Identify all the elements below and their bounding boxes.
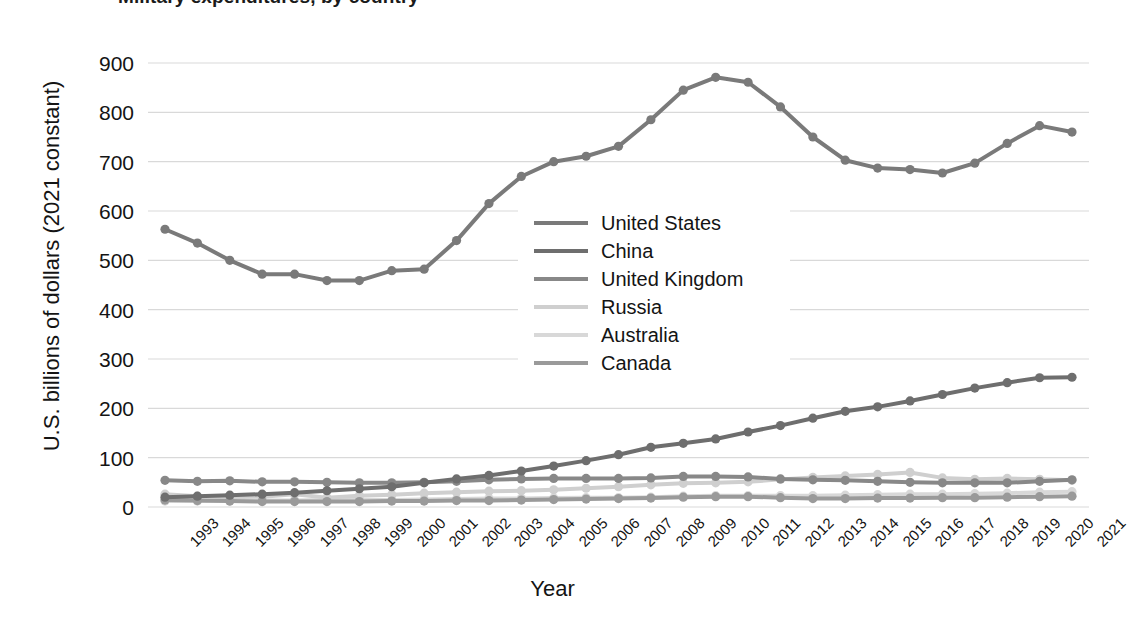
data-point: [387, 496, 396, 505]
x-tick-label: 2019: [1029, 515, 1063, 549]
data-point: [743, 492, 752, 501]
legend-line-swatch: [534, 333, 588, 337]
data-point: [290, 497, 299, 506]
data-point: [355, 497, 364, 506]
chart-title: Military expenditures, by country: [118, 0, 419, 8]
x-tick-label: 2009: [705, 515, 739, 549]
data-point: [549, 157, 558, 166]
data-point: [614, 482, 623, 491]
legend-item-china[interactable]: China: [534, 237, 790, 265]
x-tick-label: 1995: [252, 515, 286, 549]
data-point: [517, 172, 526, 181]
x-tick-label: 1994: [219, 515, 253, 549]
legend-item-united-kingdom[interactable]: United Kingdom: [534, 265, 790, 293]
x-tick-label: 2008: [673, 515, 707, 549]
data-point: [484, 487, 493, 496]
data-point: [1003, 139, 1012, 148]
legend-label: Russia: [601, 297, 662, 317]
x-tick-label: 2002: [478, 515, 512, 549]
x-tick-label: 2011: [770, 515, 803, 548]
data-point: [1003, 478, 1012, 487]
data-point: [258, 490, 267, 499]
data-point: [258, 270, 267, 279]
legend-line-swatch: [534, 249, 588, 253]
data-point: [193, 492, 202, 501]
x-tick-label: 2003: [511, 515, 545, 549]
data-point: [452, 236, 461, 245]
data-point: [679, 439, 688, 448]
x-tick-label: 2006: [608, 515, 642, 549]
data-point: [290, 270, 299, 279]
legend-item-canada[interactable]: Canada: [534, 349, 790, 377]
data-point: [646, 494, 655, 503]
legend-line-swatch: [534, 361, 588, 365]
data-point: [776, 102, 785, 111]
x-tick-label: 2001: [446, 515, 480, 549]
data-point: [711, 73, 720, 82]
data-point: [711, 492, 720, 501]
data-point: [258, 477, 267, 486]
data-point: [484, 199, 493, 208]
y-tick-label: 200: [62, 398, 134, 419]
legend-item-russia[interactable]: Russia: [534, 293, 790, 321]
x-tick-label: 1997: [316, 515, 350, 549]
data-point: [970, 159, 979, 168]
data-point: [905, 494, 914, 503]
x-tick-label: 2016: [932, 515, 966, 549]
data-point: [905, 478, 914, 487]
y-tick-label: 400: [62, 300, 134, 321]
data-point: [776, 421, 785, 430]
data-point: [517, 486, 526, 495]
data-point: [679, 472, 688, 481]
data-point: [517, 466, 526, 475]
data-point: [808, 414, 817, 423]
data-point: [582, 152, 591, 161]
y-tick-label: 700: [62, 152, 134, 173]
data-point: [322, 478, 331, 487]
x-tick-label: 2020: [1061, 515, 1095, 549]
data-point: [614, 494, 623, 503]
data-point: [1067, 373, 1076, 382]
data-point: [614, 450, 623, 459]
data-point: [873, 402, 882, 411]
data-point: [420, 478, 429, 487]
x-tick-label: 1996: [284, 515, 318, 549]
chart-legend[interactable]: United StatesChinaUnited KingdomRussiaAu…: [518, 198, 790, 382]
data-point: [679, 493, 688, 502]
y-tick-label: 500: [62, 250, 134, 271]
data-point: [1067, 127, 1076, 136]
data-point: [420, 489, 429, 498]
data-point: [1067, 475, 1076, 484]
data-point: [517, 495, 526, 504]
x-tick-label: 2015: [899, 515, 933, 549]
data-point: [808, 494, 817, 503]
data-point: [970, 493, 979, 502]
data-point: [225, 476, 234, 485]
data-point: [808, 475, 817, 484]
data-point: [938, 390, 947, 399]
data-point: [1067, 492, 1076, 501]
x-tick-label: 2017: [964, 515, 998, 549]
x-tick-label: 2005: [575, 515, 609, 549]
legend-item-united-states[interactable]: United States: [534, 209, 790, 237]
data-point: [1035, 373, 1044, 382]
y-tick-label: 800: [62, 102, 134, 123]
y-tick-label: 300: [62, 349, 134, 370]
x-tick-label: 1999: [381, 515, 415, 549]
x-tick-label: 1998: [349, 515, 383, 549]
data-point: [938, 168, 947, 177]
legend-item-australia[interactable]: Australia: [534, 321, 790, 349]
data-point: [517, 474, 526, 483]
data-point: [290, 488, 299, 497]
x-axis-title: Year: [0, 576, 1105, 602]
data-point: [873, 477, 882, 486]
data-point: [582, 484, 591, 493]
data-point: [873, 494, 882, 503]
x-tick-label: 2007: [640, 515, 674, 549]
data-point: [646, 473, 655, 482]
data-point: [776, 493, 785, 502]
data-point: [290, 477, 299, 486]
data-point: [776, 474, 785, 483]
legend-label: China: [601, 241, 653, 261]
